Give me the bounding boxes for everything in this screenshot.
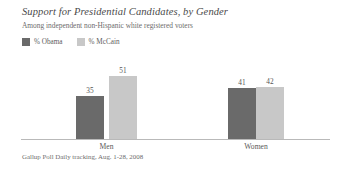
bar-value-women-mccain: 42 — [266, 78, 273, 85]
bar-rect-men-mccain — [109, 76, 137, 139]
bar-women-obama: 41 — [228, 79, 256, 139]
bar-men-mccain: 51 — [109, 67, 137, 139]
bar-rect-women-mccain — [256, 87, 284, 139]
plot-area: 35 51 41 42 — [0, 52, 346, 140]
bar-group-men: 35 51 — [76, 67, 137, 139]
bar-men-obama: 35 — [76, 87, 104, 139]
bar-group-women: 41 42 — [228, 78, 284, 139]
bar-value-men-obama: 35 — [86, 87, 93, 94]
legend-label-mccain: % McCain — [89, 38, 120, 46]
legend-swatch-obama-icon — [22, 38, 30, 46]
chart-subtitle: Among independent non-Hispanic white reg… — [22, 21, 193, 30]
legend-item-mccain: % McCain — [77, 38, 120, 46]
x-axis-baseline — [21, 139, 330, 140]
source-note: Gallup Poll Daily tracking, Aug. 1-28, 2… — [22, 153, 143, 160]
bar-rect-women-obama — [228, 88, 256, 139]
bar-rect-men-obama — [76, 96, 104, 139]
chart-figure: Support for Presidential Candidates, by … — [0, 0, 346, 171]
chart-title: Support for Presidential Candidates, by … — [22, 6, 228, 17]
legend-item-obama: % Obama — [22, 38, 63, 46]
bar-value-men-mccain: 51 — [119, 67, 126, 74]
category-label-women: Women — [228, 142, 284, 151]
bar-value-women-obama: 41 — [238, 79, 245, 86]
legend-swatch-mccain-icon — [77, 38, 85, 46]
category-label-men: Men — [76, 142, 137, 151]
bar-women-mccain: 42 — [256, 78, 284, 139]
legend-label-obama: % Obama — [34, 38, 63, 46]
chart-legend: % Obama % McCain — [22, 38, 120, 46]
